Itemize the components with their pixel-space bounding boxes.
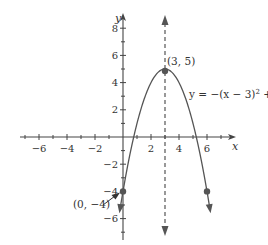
x-tick-label: 4 — [176, 143, 182, 154]
x-tick-label: −2 — [88, 143, 103, 154]
parabola-chart: −6−4−2246 8642−2−4−6 x y (3, 5) y = −(x … — [0, 0, 268, 245]
symmetry-arrow-down-icon — [162, 226, 169, 236]
x-tick-label: 6 — [204, 143, 210, 154]
y-intercept-point — [120, 188, 126, 194]
y-axis-label: y — [114, 12, 122, 25]
y-tick-label: 4 — [112, 77, 118, 88]
x-tick-label: −6 — [32, 143, 47, 154]
equation-tail: + 5 — [260, 88, 268, 100]
vertex-label: (3, 5) — [167, 55, 195, 67]
x-tick-label: −4 — [60, 143, 75, 154]
x-tick-label: 2 — [148, 143, 154, 154]
curve-arrow-right-icon — [206, 204, 213, 213]
y-tick-label: 6 — [112, 50, 118, 61]
y-tick-label: −2 — [103, 159, 118, 170]
equation-label: y = −(x − 3)2 + 5 — [188, 88, 268, 100]
equation-main: y = −(x − 3) — [188, 88, 255, 100]
x-axis-label: x — [232, 140, 239, 153]
y-tick-label: −6 — [103, 213, 118, 224]
symmetry-arrow-up-icon — [162, 15, 169, 25]
y-tick-label: 2 — [112, 104, 118, 115]
vertex-point — [162, 68, 168, 74]
symmetric-point — [204, 188, 210, 194]
